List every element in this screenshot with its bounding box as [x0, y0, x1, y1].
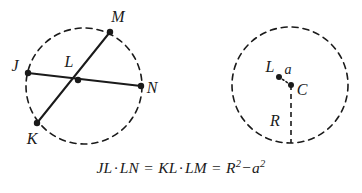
left-circle-outline [26, 28, 142, 144]
point-n [138, 83, 144, 89]
label-n: N [146, 79, 159, 96]
formula-term-kl: KL [158, 159, 177, 176]
chord-km [37, 32, 110, 123]
point-l-left [75, 77, 81, 83]
formula-equals-1: = [143, 159, 154, 176]
formula-dot-1: · [112, 159, 119, 176]
formula-term-ln: LN [120, 159, 139, 176]
formula-term-jl: JL [96, 159, 112, 176]
label-j: J [11, 57, 19, 74]
left-circle-group: J M L N K [11, 8, 158, 147]
label-k: K [26, 130, 39, 147]
label-m: M [110, 8, 126, 25]
label-l-right: L [265, 58, 275, 75]
label-c: C [297, 81, 308, 98]
chord-jn [28, 73, 141, 86]
formula-minus: − [241, 159, 252, 176]
point-m [107, 29, 113, 35]
geometry-figure: J M L N K L C a R JL·LN = KL·LM = R2 [0, 0, 362, 193]
formula-caption: JL·LN = KL·LM = R2−a2 [0, 158, 362, 177]
formula-term-lm: LM [185, 159, 207, 176]
formula-dot-2: · [178, 159, 185, 176]
point-k [34, 120, 40, 126]
formula-term-r: R [226, 159, 236, 176]
formula-exp-a: 2 [260, 158, 265, 169]
formula-equals-2: = [211, 159, 222, 176]
formula-term-a: a [252, 159, 260, 176]
right-circle-group: L C a R [232, 27, 348, 143]
label-a: a [285, 62, 292, 77]
label-l-left: L [64, 53, 74, 70]
point-j [25, 70, 31, 76]
point-l-right [276, 74, 282, 80]
label-r: R [269, 112, 280, 129]
point-c [288, 82, 294, 88]
